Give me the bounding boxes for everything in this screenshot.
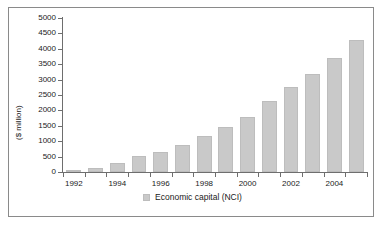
bar-2004 [327, 58, 342, 172]
x-tick-label-1992: 1992 [65, 179, 83, 188]
x-tick-mark [150, 173, 151, 177]
x-tick-label-1998: 1998 [195, 179, 213, 188]
y-tick-label: 3500 [0, 60, 56, 68]
x-tick-mark [215, 173, 216, 177]
y-tick-mark [58, 110, 62, 111]
x-tick-mark [237, 173, 238, 177]
y-tick-label-text: 4500 [4, 29, 56, 37]
y-tick-label: 1000 [0, 137, 56, 145]
chart-figure: ($ million) 0500100015002000250030003500… [0, 0, 385, 226]
bar-1996 [153, 152, 168, 172]
y-tick-label: 0 [0, 168, 56, 176]
y-tick-label-text: 2500 [4, 91, 56, 99]
bar-2003 [305, 74, 320, 172]
y-tick-label-text: 2000 [4, 106, 56, 114]
y-tick-label: 2000 [0, 106, 56, 114]
legend-label: Economic capital (NCI) [155, 193, 242, 202]
x-tick-label-2004: 2004 [326, 179, 344, 188]
y-tick-label-text: 1500 [4, 122, 56, 130]
bar-1995 [132, 156, 147, 172]
y-tick-label-text: 3500 [4, 60, 56, 68]
x-tick-mark [106, 173, 107, 177]
y-tick-mark [58, 126, 62, 127]
bar-1998 [197, 136, 212, 172]
x-tick-mark [172, 173, 173, 177]
x-tick-mark [193, 173, 194, 177]
y-tick-label-text: 500 [4, 153, 56, 161]
x-tick-mark [302, 173, 303, 177]
bar-2000 [240, 117, 255, 172]
y-tick-mark [58, 49, 62, 50]
x-tick-mark [280, 173, 281, 177]
bar-1992 [66, 170, 81, 172]
y-tick-label: 4000 [0, 45, 56, 53]
y-tick-label-text: 3000 [4, 76, 56, 84]
y-tick-mark [58, 172, 62, 173]
x-tick-mark [128, 173, 129, 177]
y-tick-label-text: 0 [4, 168, 56, 176]
y-tick-mark [58, 64, 62, 65]
y-tick-label: 2500 [0, 91, 56, 99]
x-tick-mark [85, 173, 86, 177]
y-tick-label-text: 4000 [4, 45, 56, 53]
x-tick-mark [324, 173, 325, 177]
bar-1997 [175, 145, 190, 172]
bar-2001 [262, 101, 277, 172]
bar-1994 [110, 163, 125, 172]
x-tick-mark [63, 173, 64, 177]
y-tick-mark [58, 95, 62, 96]
chart-legend: Economic capital (NCI) [0, 193, 385, 202]
x-tick-mark [258, 173, 259, 177]
bar-1993 [88, 168, 103, 172]
bar-2002 [284, 87, 299, 172]
x-tick-mark [367, 173, 368, 177]
bar-2005 [349, 40, 364, 172]
y-tick-mark [58, 80, 62, 81]
y-tick-mark [58, 157, 62, 158]
y-tick-mark [58, 33, 62, 34]
legend-swatch-economic-capital [143, 194, 150, 201]
y-tick-mark [58, 18, 62, 19]
plot-area [63, 18, 367, 172]
y-tick-label-text: 5000 [4, 14, 56, 22]
x-tick-mark [345, 173, 346, 177]
x-tick-label-1996: 1996 [152, 179, 170, 188]
y-tick-mark [58, 141, 62, 142]
x-tick-label-1994: 1994 [108, 179, 126, 188]
bar-1999 [218, 127, 233, 172]
y-tick-label: 4500 [0, 29, 56, 37]
y-tick-label: 500 [0, 153, 56, 161]
x-tick-label-2000: 2000 [239, 179, 257, 188]
x-tick-label-2002: 2002 [282, 179, 300, 188]
y-tick-label: 3000 [0, 76, 56, 84]
y-tick-label-text: 1000 [4, 137, 56, 145]
y-tick-label: 5000 [0, 14, 56, 22]
y-tick-label: 1500 [0, 122, 56, 130]
